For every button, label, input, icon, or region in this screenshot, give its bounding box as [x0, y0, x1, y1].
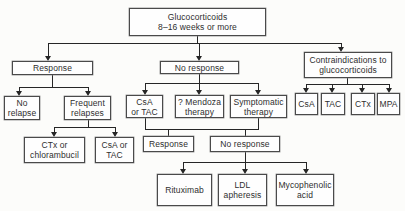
- connector-line-horizontal: [48, 43, 342, 44]
- node-frequent-relapses: Frequentrelapses: [64, 96, 111, 120]
- node-tac: TAC: [321, 93, 345, 115]
- node-label: TAC: [325, 99, 342, 109]
- node-label: therapy: [185, 107, 214, 117]
- node-label: CsA or: [101, 140, 127, 150]
- node-label: Rituximab: [165, 185, 204, 195]
- node-label: No response: [175, 63, 224, 73]
- node-label: acid: [297, 190, 313, 200]
- node-label: apheresis: [224, 190, 262, 200]
- flowchart: Glucocorticoids8–16 weeks or moreRespons…: [0, 0, 405, 211]
- node-no-response-1: No response: [160, 61, 239, 74]
- node-csa-or-tac-left: CsA orTAC: [95, 137, 134, 163]
- node-label: CTx or: [41, 140, 67, 150]
- node-label: relapses: [71, 108, 104, 118]
- node-response-1: Response: [12, 61, 93, 75]
- node-ldl-apheresis: LDLapheresis: [218, 174, 267, 206]
- node-label: glucocorticoids: [319, 65, 377, 75]
- node-label: MPA: [379, 99, 397, 109]
- node-symptomatic-therapy: Symptomatictherapy: [230, 95, 287, 118]
- node-label: LDL: [235, 180, 251, 190]
- node-label: TAC: [106, 150, 123, 160]
- connector-line-horizontal: [54, 127, 116, 128]
- node-label: Symptomatic: [233, 97, 283, 107]
- node-mendoza-therapy: ? Mendozatherapy: [175, 95, 224, 118]
- node-csa: CsA: [295, 93, 318, 115]
- node-label: Frequent: [70, 98, 105, 108]
- node-label: No response: [220, 139, 269, 149]
- node-label: ? Mendoza: [178, 97, 221, 107]
- node-csa-or-tac-mid: CsAor TAC: [126, 95, 163, 118]
- connector-line-horizontal: [145, 129, 259, 130]
- node-label: Mycophenolic: [278, 180, 331, 190]
- connector-line-vertical: [199, 43, 200, 57]
- node-label: chlorambucil: [30, 150, 79, 160]
- node-ctx-or-chlorambucil: CTx orchlorambucil: [24, 137, 85, 163]
- node-label: 8–16 weeks or more: [158, 22, 237, 32]
- node-label: Glucocorticoids: [168, 12, 228, 22]
- node-label: CsA: [298, 99, 314, 109]
- node-label: relapse: [8, 108, 37, 118]
- node-label: CsA: [136, 97, 152, 107]
- node-mycophenolic-acid: Mycophenolicacid: [276, 174, 334, 206]
- node-label: Response: [33, 63, 72, 73]
- connector-line-vertical: [48, 43, 49, 57]
- connector-line-horizontal: [145, 83, 259, 84]
- node-glucocorticoids: Glucocorticoids8–16 weeks or more: [129, 8, 266, 36]
- node-contraindications: Contraindications toglucocorticoids: [304, 52, 392, 78]
- node-label: CTx: [355, 99, 371, 109]
- node-label: Response: [149, 139, 188, 149]
- node-no-relapse: Norelapse: [4, 96, 40, 120]
- node-label: Contraindications to: [309, 55, 386, 65]
- connector-line-horizontal: [19, 87, 89, 88]
- node-ctx: CTx: [351, 93, 375, 115]
- node-rituximab: Rituximab: [157, 174, 212, 206]
- node-mpa: MPA: [377, 93, 400, 115]
- node-label: No: [16, 98, 27, 108]
- connector-line-horizontal: [306, 84, 390, 85]
- node-response-2: Response: [143, 136, 194, 152]
- node-no-response-2: No response: [210, 136, 280, 152]
- node-label: or TAC: [131, 107, 158, 117]
- node-label: therapy: [244, 107, 273, 117]
